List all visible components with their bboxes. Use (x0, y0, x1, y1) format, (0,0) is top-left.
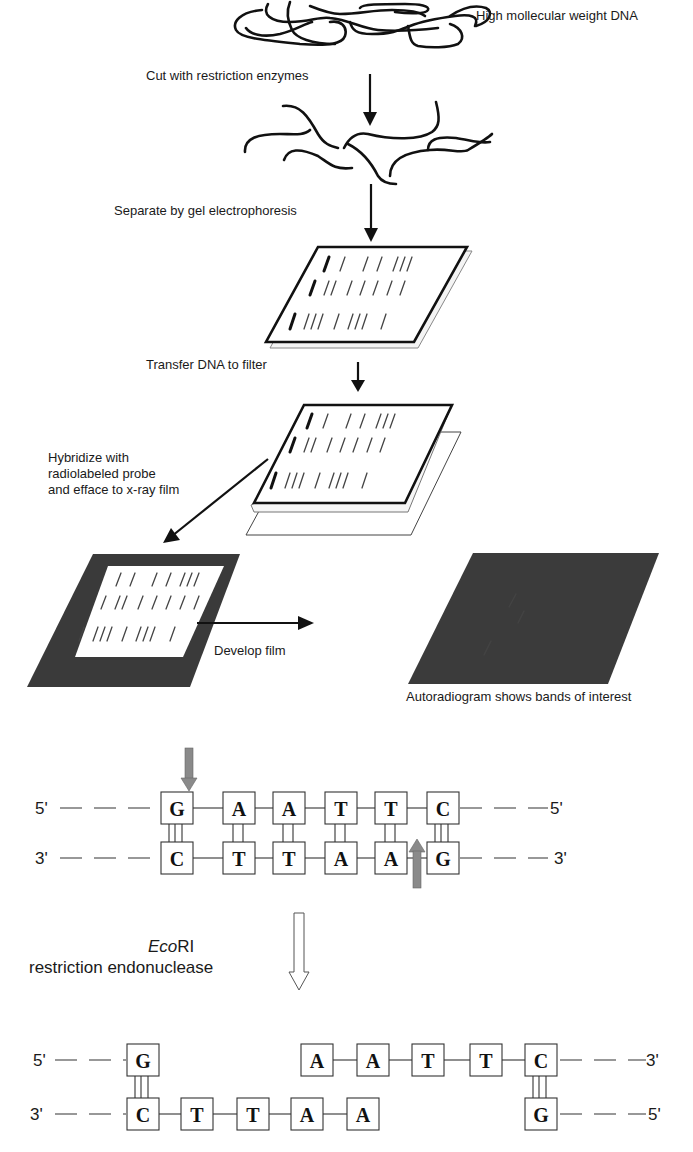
strand-end-label: 3' (646, 1051, 659, 1070)
left-fragment-bottom-nucleotide: T (181, 1098, 213, 1130)
enzyme-name: EcoRI (148, 937, 194, 956)
nucleotide-letter: T (246, 1104, 260, 1126)
nucleotide-letter: T (232, 848, 246, 870)
bottom-strand-nucleotide: T (223, 842, 255, 874)
svg-text:and efface to x-ray film: and efface to x-ray film (48, 482, 179, 497)
svg-text:radiolabeled probe: radiolabeled probe (48, 466, 156, 481)
nucleotide-letter: T (384, 798, 398, 820)
strand-end-label: 5' (648, 1105, 661, 1124)
right-fragment-top-nucleotide: T (470, 1044, 502, 1076)
right-fragment-top-nucleotide: T (412, 1044, 444, 1076)
nucleotide-letter: A (310, 1050, 325, 1072)
svg-text:Hybridize with: Hybridize with (48, 450, 129, 465)
strand-end-label: 3' (30, 1105, 43, 1124)
ecori-recognition-site: 5'3'5'3'GCATATTATACG (35, 792, 567, 874)
autoradiogram (408, 553, 659, 684)
nucleotide-letter: A (356, 1104, 371, 1126)
develop-step-label: Develop film (214, 643, 286, 658)
autoradiogram-label: Autoradiogram shows bands of interest (406, 689, 632, 704)
electrophoresis-gel (266, 247, 472, 348)
nucleotide-letter: A (334, 848, 349, 870)
cut-step-label: Cut with restriction enzymes (146, 68, 309, 83)
strand-end-label: 5' (33, 1051, 46, 1070)
nucleotide-letter: T (190, 1104, 204, 1126)
hybridize-step-label: Hybridize with radiolabeled probe and ef… (48, 450, 179, 497)
nucleotide-letter: C (436, 798, 450, 820)
bottom-strand-nucleotide: G (427, 842, 459, 874)
right-fragment-bottom-nucleotide: G (525, 1098, 557, 1130)
enzyme-description: restriction endonuclease (29, 958, 213, 977)
cut-site-arrow-bottom-icon (409, 839, 425, 888)
nucleotide-letter: G (169, 798, 185, 820)
separate-step-label: Separate by gel electrophoresis (114, 203, 297, 218)
left-fragment-bottom-nucleotide: T (237, 1098, 269, 1130)
ecori-cut-products: 5'3'GCTTAAAATTCG3'5' (30, 1044, 661, 1130)
dna-label: High mollecular weight DNA (476, 8, 638, 23)
nucleotide-letter: T (479, 1050, 493, 1072)
top-strand-nucleotide: A (223, 792, 255, 824)
bottom-strand-nucleotide: C (161, 842, 193, 874)
nucleotide-letter: G (135, 1050, 151, 1072)
nucleotide-letter: G (435, 848, 451, 870)
xray-film-exposure (27, 554, 240, 687)
hollow-down-arrow-icon (289, 913, 309, 990)
nucleotide-letter: G (533, 1104, 549, 1126)
top-strand-nucleotide: T (375, 792, 407, 824)
left-fragment-bottom-nucleotide: A (347, 1098, 379, 1130)
down-arrow-icon (351, 362, 365, 392)
left-fragment-bottom-nucleotide: C (127, 1098, 159, 1130)
strand-end-label: 5' (35, 799, 48, 818)
left-fragment-top-nucleotide: G (127, 1044, 159, 1076)
nucleotide-letter: A (232, 798, 247, 820)
strand-end-label: 3' (554, 849, 567, 868)
top-strand-nucleotide: A (273, 792, 305, 824)
right-fragment-top-nucleotide: A (301, 1044, 333, 1076)
right-fragment-top-nucleotide: C (525, 1044, 557, 1076)
bottom-strand-nucleotide: T (273, 842, 305, 874)
nucleotide-letter: A (384, 848, 399, 870)
nucleotide-letter: T (421, 1050, 435, 1072)
nucleotide-letter: A (300, 1104, 315, 1126)
high-molecular-weight-dna (235, 2, 490, 47)
southern-blot-diagram: High mollecular weight DNA Cut with rest… (0, 0, 693, 1152)
nucleotide-letter: C (170, 848, 184, 870)
top-strand-nucleotide: T (325, 792, 357, 824)
nucleotide-letter: A (366, 1050, 381, 1072)
down-arrow-icon (363, 74, 377, 126)
top-strand-nucleotide: C (427, 792, 459, 824)
nucleotide-letter: T (282, 848, 296, 870)
down-arrow-icon (364, 184, 378, 242)
nucleotide-letter: T (334, 798, 348, 820)
nucleotide-letter: C (136, 1104, 150, 1126)
left-fragment-bottom-nucleotide: A (291, 1098, 323, 1130)
gel-on-filter (246, 405, 461, 535)
nucleotide-letter: A (282, 798, 297, 820)
bottom-strand-nucleotide: A (375, 842, 407, 874)
top-strand-nucleotide: G (161, 792, 193, 824)
cut-site-arrow-top-icon (181, 748, 197, 791)
right-fragment-top-nucleotide: A (357, 1044, 389, 1076)
strand-end-label: 3' (35, 849, 48, 868)
bottom-strand-nucleotide: A (325, 842, 357, 874)
transfer-step-label: Transfer DNA to filter (146, 357, 268, 372)
nucleotide-letter: C (534, 1050, 548, 1072)
strand-end-label: 5' (550, 799, 563, 818)
